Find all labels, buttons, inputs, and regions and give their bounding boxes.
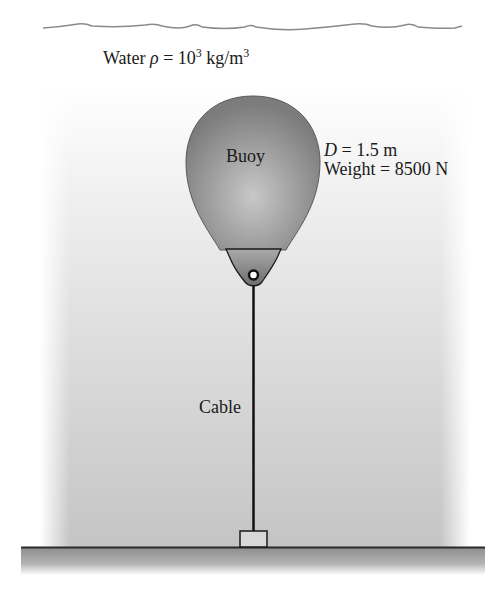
- rho-symbol: ρ: [150, 48, 159, 68]
- diameter-value: = 1.5 m: [337, 140, 397, 160]
- diameter-spec: D = 1.5 m: [324, 141, 448, 160]
- anchor-block: [240, 531, 267, 547]
- cable-eye: [249, 271, 258, 280]
- density-unit-exponent: 3: [243, 46, 249, 60]
- diagram-graphics: [0, 0, 502, 597]
- buoy-label: Buoy: [226, 146, 265, 166]
- water-density-label: Water ρ = 103 kg/m3: [103, 48, 249, 68]
- buoy-body: [186, 96, 320, 250]
- diameter-symbol: D: [324, 140, 337, 160]
- buoy-diagram: Water ρ = 103 kg/m3 Buoy D = 1.5 m Weigh…: [0, 0, 502, 597]
- seabed: [21, 547, 485, 575]
- water-surface-line: [43, 24, 462, 30]
- density-unit: kg/m: [202, 48, 244, 68]
- buoy-specs: D = 1.5 m Weight = 8500 N: [324, 141, 448, 179]
- water-label-text: Water: [103, 48, 150, 68]
- cable-label: Cable: [199, 397, 241, 417]
- weight-spec: Weight = 8500 N: [324, 160, 448, 179]
- density-value: = 10: [159, 48, 196, 68]
